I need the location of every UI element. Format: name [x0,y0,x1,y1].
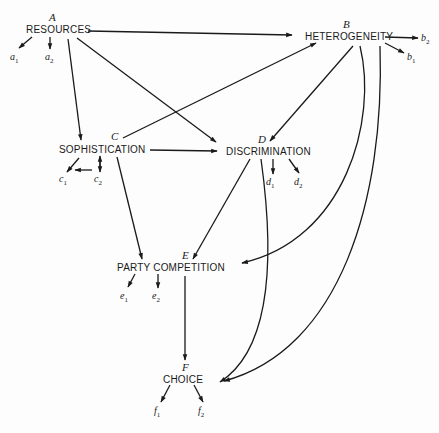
indicator-f1: f1 [154,405,160,419]
indicator-f2: f2 [198,405,204,419]
node-A-letter: A [49,11,56,23]
arrow-A-a1 [19,37,32,48]
node-F-letter: F [182,361,189,373]
indicator-b2: b2 [421,32,430,46]
arrows-layer [0,0,439,433]
arrow-D-E [193,159,250,259]
node-B-letter: B [343,18,350,30]
arrow-C-D [150,150,217,151]
indicator-c2: c2 [94,173,102,187]
indicator-c1: c1 [59,173,67,187]
arrow-A-C [68,39,81,140]
node-C-letter: C [111,130,118,142]
arrow-F-f2 [194,385,203,402]
indicator-d1: d1 [266,176,275,190]
arrow-D-F [220,159,268,382]
node-party-competition: PARTY COMPETITION [117,262,225,273]
arrow-C-B [123,43,316,138]
indicator-e1: e1 [120,290,128,304]
indicator-a2: a2 [45,51,54,65]
arrow-F-f1 [161,385,170,402]
indicator-e2: e2 [152,290,160,304]
node-resources: RESOURCES [26,24,91,35]
arrow-D-d2 [289,159,299,173]
node-choice: CHOICE [163,374,203,385]
arrow-C-E [117,157,142,259]
node-discrimination: DISCRIMINATION [226,146,311,157]
arrow-B-F [224,46,380,381]
indicator-b1: b1 [407,51,416,65]
path-diagram: A RESOURCES a1 a2 B HETEROGENEITY b2 b1 … [0,0,439,433]
arrow-E-e1 [128,274,135,287]
indicator-a1: a1 [10,51,19,65]
arrow-B-b1 [385,43,404,53]
node-D-letter: D [258,133,266,145]
arrow-B-D [270,46,353,141]
indicator-d2: d2 [294,176,303,190]
node-heterogeneity: HETEROGENEITY [305,31,393,42]
node-E-letter: E [182,249,189,261]
node-sophistication: SOPHISTICATION [59,144,146,155]
arrow-A-B [88,31,292,35]
